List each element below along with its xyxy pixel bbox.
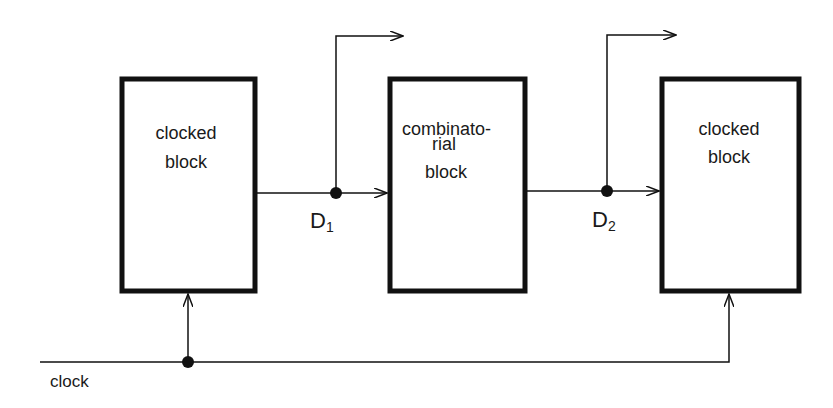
d2-label: D2 xyxy=(592,207,616,234)
right-clocked-block: clocked block xyxy=(662,79,799,291)
left-block-label-line1: clocked xyxy=(155,123,216,143)
d1-label: D1 xyxy=(310,208,334,235)
middle-block-label-line2: rial xyxy=(432,134,456,154)
clock-wiring: clock xyxy=(40,294,729,391)
synchronous-pipeline-diagram: clocked block combinato- rial block cloc… xyxy=(0,0,833,408)
d1-node xyxy=(330,187,342,199)
left-clocked-block: clocked block xyxy=(122,79,255,291)
d1-wiring: D1 xyxy=(257,36,403,235)
clock-label: clock xyxy=(50,372,89,391)
middle-block-label-line3: block xyxy=(425,162,468,182)
clock-node xyxy=(182,356,194,368)
combinatorial-block: combinato- rial block xyxy=(390,79,525,291)
d2-node xyxy=(601,185,613,197)
right-block-label-line2: block xyxy=(708,147,751,167)
right-block-label-line1: clocked xyxy=(698,119,759,139)
d2-wiring: D2 xyxy=(527,35,676,234)
left-block-label-line2: block xyxy=(165,152,208,172)
